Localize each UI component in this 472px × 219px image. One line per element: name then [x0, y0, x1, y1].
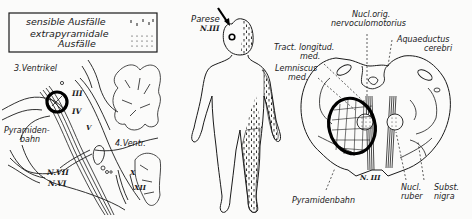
label-n7: N.VII — [46, 168, 69, 177]
label-aqueduct-1: Aquaeductus — [396, 35, 449, 44]
label-subst-nigra-2: nigra — [434, 192, 455, 201]
label-nucl-orig-2: nervoculomotorius — [331, 19, 406, 28]
label-n4: IV — [71, 107, 83, 116]
label-nucl-ruber-2: ruber — [401, 192, 423, 201]
lesion-circle-sagittal — [47, 92, 67, 112]
label-subst-nigra-1: Subst. — [434, 183, 459, 192]
label-n10: X — [129, 168, 136, 177]
label-lemniscus-1: Lemniscus — [275, 64, 317, 73]
label-paresis-1: Parese — [191, 14, 220, 24]
diagram-canvas: sensible Ausfälle extrapyramidale Ausfäl… — [0, 0, 472, 219]
label-pyramidal-cross: Pyramidenbahn — [292, 196, 355, 205]
patient-figure: Parese N.III — [191, 8, 281, 213]
label-lemniscus-2: med. — [288, 73, 308, 82]
label-n12: XII — [133, 183, 147, 192]
label-tract-longitud-1: Tract. longitud. — [274, 43, 334, 52]
label-3rd-ventricle: 3.Ventrikel — [14, 64, 58, 73]
label-n5: V — [86, 123, 93, 132]
diagram-svg: sensible Ausfälle extrapyramidale Ausfäl… — [0, 0, 472, 219]
label-nucl-ruber-1: Nucl. — [401, 183, 421, 192]
label-paresis-2: N.III — [199, 24, 220, 33]
label-n3-cross: N. III — [359, 173, 381, 182]
label-pyramidal-2: bahn — [20, 135, 40, 144]
legend-extrapyramidal-label-2: Ausfälle — [57, 38, 96, 49]
legend: sensible Ausfälle extrapyramidale Ausfäl… — [9, 13, 157, 52]
label-n6: N.VI — [47, 179, 67, 188]
n3-fiber-bundles — [366, 96, 396, 170]
label-4th-ventricle: 4.Ventr. — [115, 139, 146, 148]
vertical-dashes-icon — [131, 19, 153, 26]
label-n3-sagittal: III — [71, 89, 83, 98]
dots-icon — [131, 35, 152, 46]
sagittal-brainstem: 3.Ventrikel Pyramiden- bahn III IV V 4.V… — [2, 60, 161, 215]
label-tract-longitud-2: med. — [300, 52, 320, 61]
nucleus-ruber-right — [387, 114, 403, 130]
label-pyramidal-1: Pyramiden- — [4, 126, 50, 135]
label-aqueduct-2: cerebri — [424, 44, 453, 53]
legend-sensory-label: sensible Ausfälle — [26, 16, 106, 27]
label-nucl-orig-1: Nucl.orig. — [352, 10, 390, 19]
midbrain-cross-section: Nucl.orig. nervoculomotorius Aquaeductus… — [274, 10, 459, 205]
eye-paresis-marker — [229, 34, 235, 40]
